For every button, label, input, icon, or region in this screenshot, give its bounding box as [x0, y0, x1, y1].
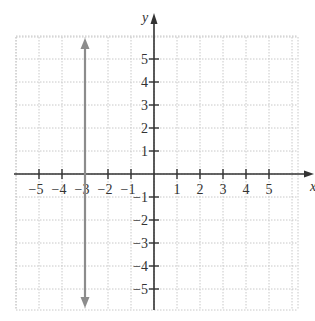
x-tick-label: 2 — [197, 182, 204, 197]
line-top-arrow-icon — [81, 38, 90, 49]
y-tick-label: −2 — [133, 213, 148, 228]
x-tick-label: −2 — [98, 182, 113, 197]
y-tick-label: 4 — [141, 75, 148, 90]
y-tick-label: 3 — [141, 98, 148, 113]
y-tick-label: −3 — [133, 236, 148, 251]
grid — [16, 36, 298, 310]
y-axis-arrow-icon — [151, 13, 158, 24]
coordinate-plane: xy −5−4−3−2−11234554321−1−2−3−4−5 — [0, 0, 315, 321]
line-bottom-arrow-icon — [81, 297, 90, 308]
y-tick-label: 1 — [141, 144, 148, 159]
x-tick-label: 4 — [243, 182, 250, 197]
y-tick-label: −5 — [133, 282, 148, 297]
x-tick-label: 1 — [174, 182, 181, 197]
y-tick-label: 5 — [141, 52, 148, 67]
y-tick-label: 2 — [141, 121, 148, 136]
x-axis-label: x — [309, 179, 315, 194]
x-axis-arrow-icon — [304, 171, 314, 178]
graph-line — [81, 38, 90, 308]
axes: xy — [14, 10, 315, 310]
y-axis-label: y — [140, 10, 149, 25]
y-tick-label: −4 — [133, 259, 148, 274]
x-tick-label: −4 — [52, 182, 67, 197]
x-tick-label: 5 — [266, 182, 273, 197]
y-tick-label: −1 — [133, 190, 148, 205]
x-tick-label: −5 — [29, 182, 44, 197]
x-tick-label: −3 — [75, 182, 90, 197]
x-tick-label: 3 — [220, 182, 227, 197]
